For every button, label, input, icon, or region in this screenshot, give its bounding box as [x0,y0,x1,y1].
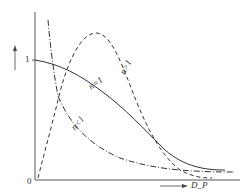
origin-label: 0 [27,176,32,186]
y-arrowhead-icon [13,45,17,51]
series-n-lt-1 [48,20,235,172]
chart-plot [0,0,251,192]
x-axis-label: D_P [191,180,208,190]
x-arrowhead-icon [182,184,188,188]
series-n-eq-1 [35,60,225,170]
y-tick-label-1: 1 [25,54,30,64]
series-n-gt-1 [38,33,212,178]
